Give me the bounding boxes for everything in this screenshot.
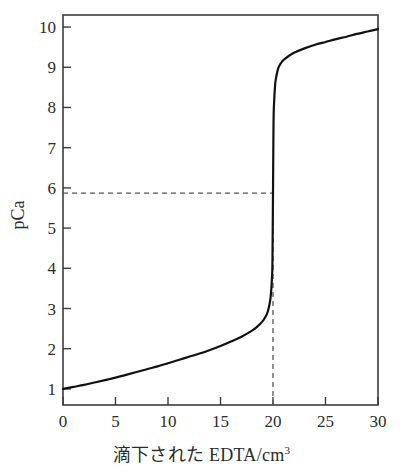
titration-curve-line (63, 29, 378, 389)
x-tick-label: 20 (265, 413, 282, 430)
y-tick-label: 3 (8, 300, 56, 317)
y-tick-label: 2 (8, 340, 56, 357)
x-tick-label: 10 (160, 413, 177, 430)
x-tick-label: 5 (111, 413, 120, 430)
y-tick-label: 10 (8, 19, 56, 36)
x-axis-title-exponent: 3 (285, 444, 291, 456)
y-tick-label: 7 (8, 139, 56, 156)
equivalence-guides (63, 193, 273, 405)
x-axis-title: 滴下された EDTA/cm3 (113, 440, 291, 466)
y-tick-label: 1 (8, 380, 56, 397)
x-axis-ticks (63, 397, 378, 405)
y-axis-ticks (63, 27, 71, 389)
y-axis-title: pCa (8, 201, 29, 230)
x-tick-label: 15 (212, 413, 229, 430)
y-tick-label: 9 (8, 59, 56, 76)
y-tick-label: 8 (8, 99, 56, 116)
y-tick-label: 4 (8, 260, 56, 277)
titration-curve-figure: 12345678910 051015202530 pCa 滴下された EDTA/… (0, 0, 403, 474)
plot-canvas (0, 0, 403, 474)
y-tick-label: 6 (8, 179, 56, 196)
x-tick-label: 25 (317, 413, 334, 430)
x-axis-title-text: 滴下された EDTA/cm (113, 445, 285, 465)
x-tick-label: 30 (370, 413, 387, 430)
x-tick-label: 0 (59, 413, 68, 430)
